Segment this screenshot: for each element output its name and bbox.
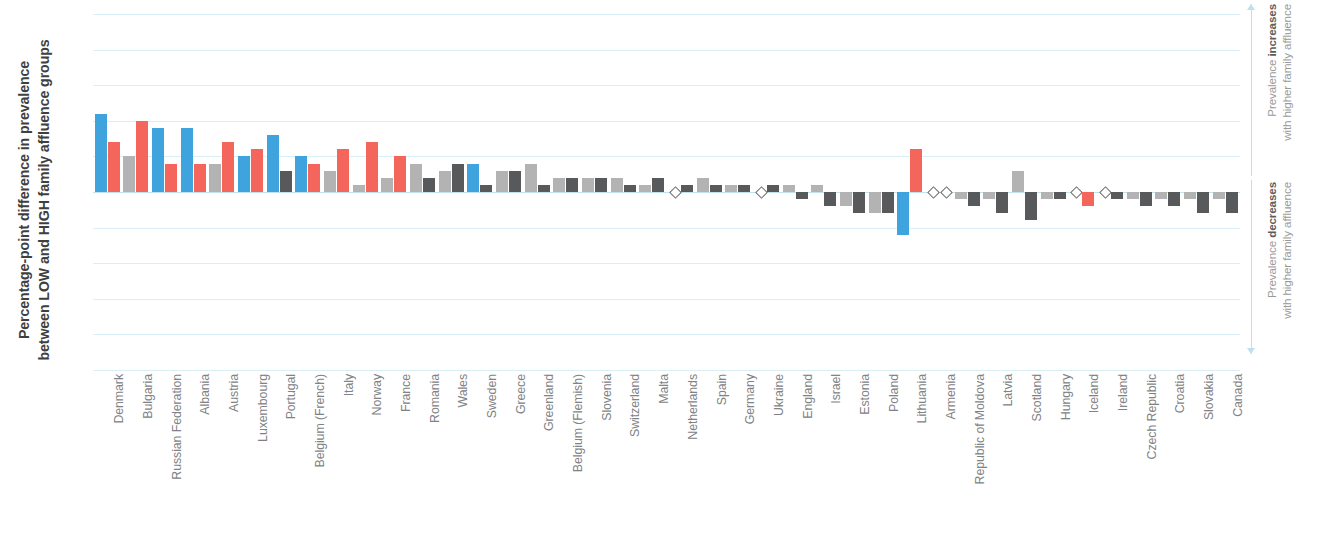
bar-group [1184, 14, 1211, 370]
x-axis-label: Belgium (Flemish) [571, 374, 585, 472]
plot-area: 2520151050-5-10-15-20-25 [93, 14, 1240, 370]
bar-group [209, 14, 236, 370]
bar [509, 171, 521, 192]
bar [869, 192, 881, 213]
bar-group [467, 14, 494, 370]
bar-group [926, 14, 953, 370]
bar [955, 192, 967, 199]
bar [582, 178, 594, 192]
bar [181, 128, 193, 192]
y-axis-title-line-2: between LOW and HIGH family affluence gr… [34, 15, 54, 385]
bar [681, 185, 693, 192]
bar [710, 185, 722, 192]
bar [1184, 192, 1196, 199]
bar [1226, 192, 1238, 213]
bar [1041, 192, 1053, 199]
bar-group [840, 14, 867, 370]
x-axis-label: Portugal [284, 374, 298, 419]
bar [525, 164, 537, 192]
x-axis-label: Hungary [1059, 374, 1073, 420]
bar [381, 178, 393, 192]
bar [983, 192, 995, 199]
bar [595, 178, 607, 192]
x-axis-label: Germany [743, 374, 757, 424]
bar [439, 171, 451, 192]
bar-group [1012, 14, 1039, 370]
bar [882, 192, 894, 213]
bar [1168, 192, 1180, 206]
x-axis-label: Belgium (French) [313, 374, 327, 467]
bar-group [955, 14, 982, 370]
bar [1140, 192, 1152, 206]
x-axis-label: Slovakia [1202, 374, 1216, 420]
x-axis-label: England [801, 374, 815, 419]
bar-group [295, 14, 322, 370]
bar-group [1098, 14, 1125, 370]
x-axis-label: Norway [370, 374, 384, 415]
bar-group [324, 14, 351, 370]
bar [423, 178, 435, 192]
x-axis-label: Bulgaria [141, 374, 155, 419]
bar-group [181, 14, 208, 370]
bar [738, 185, 750, 192]
bar [1054, 192, 1066, 199]
bar-group [582, 14, 609, 370]
x-axis-label: Ukraine [772, 374, 786, 416]
bar [725, 185, 737, 192]
x-axis-label: France [399, 374, 413, 412]
bar [337, 149, 349, 192]
bar [366, 142, 378, 192]
bar [652, 178, 664, 192]
annotation-line-1: Prevalence increases [1264, 4, 1279, 172]
bar-group [811, 14, 838, 370]
bar-group [1041, 14, 1068, 370]
bar [1082, 192, 1094, 206]
bar [996, 192, 1008, 213]
x-axis-label: Ireland [1116, 374, 1130, 411]
bar [824, 192, 836, 206]
x-axis-label: Armenia [944, 374, 958, 419]
x-axis-label: Slovenia [600, 374, 614, 421]
bar-group [525, 14, 552, 370]
bar [1025, 192, 1037, 220]
decrease-annotation-text: Prevalence decreaseswith higher family a… [1264, 182, 1294, 352]
bar [611, 178, 623, 192]
bar [697, 178, 709, 192]
bar [452, 164, 464, 192]
x-axis-label: Poland [887, 374, 901, 412]
x-axis-label: Romania [428, 374, 442, 423]
bar [324, 171, 336, 192]
bar [1155, 192, 1167, 199]
x-axis-label: Russian Federation [170, 374, 184, 480]
bar [783, 185, 795, 192]
x-axis-labels: DenmarkBulgariaRussian FederationAlbania… [93, 374, 1240, 539]
bar [796, 192, 808, 199]
bar [308, 164, 320, 192]
bar [1213, 192, 1225, 199]
bar-group [553, 14, 580, 370]
zero-value-diamond-icon [940, 186, 953, 199]
bar [897, 192, 909, 235]
bar [480, 185, 492, 192]
bar [410, 164, 422, 192]
gridline [93, 370, 1240, 371]
bar-group [983, 14, 1010, 370]
bar [639, 185, 651, 192]
bar-group [668, 14, 695, 370]
x-axis-label: Luxembourg [256, 374, 270, 442]
bar [222, 142, 234, 192]
bar [267, 135, 279, 192]
zero-value-diamond-icon [1099, 186, 1112, 199]
bar [968, 192, 980, 206]
bar-group [95, 14, 122, 370]
bar-group [496, 14, 523, 370]
bar-group [725, 14, 752, 370]
x-axis-label: Israel [829, 374, 843, 404]
bar [353, 185, 365, 192]
x-axis-label: Latvia [1001, 374, 1015, 406]
chart-root: Percentage-point difference in prevalenc… [0, 0, 1328, 541]
x-axis-label: Switzerland [628, 374, 642, 437]
bar [251, 149, 263, 192]
bar-group [1213, 14, 1240, 370]
bar-group [381, 14, 408, 370]
